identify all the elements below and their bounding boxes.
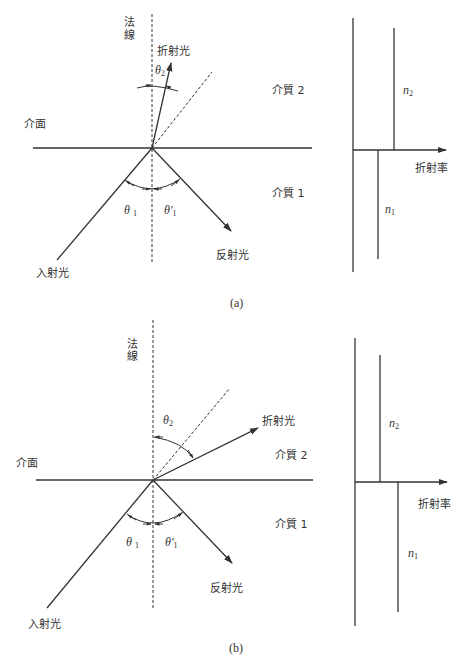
incident-extension-line (153, 388, 230, 480)
figure-a: 法 線 折射光 介面 介質 2 介質 1 入射光 反射光 θ2 θ1 θ′1 折… (24, 14, 448, 310)
incident-light-label: 入射光 (36, 266, 69, 280)
n2-label: n2 (403, 83, 413, 98)
n2-label: n2 (389, 416, 399, 431)
index-chart-a: 折射率 n2 n1 (353, 18, 448, 272)
theta1-label: θ1 (124, 203, 137, 218)
theta1p-arrow-right-icon (174, 513, 182, 519)
theta2-label: θ2 (155, 63, 165, 78)
caption-a: (a) (230, 296, 243, 310)
theta2-arc (137, 86, 178, 91)
medium-2-label: 介質 2 (275, 448, 308, 462)
ray-diagram-a: 法 線 折射光 介面 介質 2 介質 1 入射光 反射光 θ2 θ1 θ′1 (24, 14, 312, 280)
refracted-light-label: 折射光 (262, 414, 295, 428)
medium-2-label: 介質 2 (272, 83, 305, 97)
incident-light-label: 入射光 (28, 617, 61, 631)
theta1-prime-label: θ′1 (164, 203, 177, 218)
medium-1-label: 介質 1 (275, 517, 308, 531)
normal-label-2: 線 (127, 349, 138, 363)
n1-label: n1 (385, 202, 395, 217)
theta1-arc (127, 512, 183, 523)
refracted-light-label: 折射光 (157, 44, 190, 58)
incident-ray (57, 148, 152, 260)
theta1-prime-label: θ′1 (165, 535, 178, 550)
index-axis-label: 折射率 (415, 161, 448, 175)
reflected-light-label: 反射光 (210, 581, 243, 595)
ray-diagram-b: 法 線 折射光 介面 介質 2 介質 1 入射光 反射光 θ2 θ1 θ′1 (16, 320, 313, 631)
figure-b: 法 線 折射光 介面 介質 2 介質 1 入射光 反射光 θ2 θ1 θ′1 折… (16, 320, 451, 655)
reflected-light-label: 反射光 (216, 248, 249, 262)
medium-1-label: 介質 1 (272, 186, 305, 200)
theta1-arrow-left-icon (128, 515, 136, 520)
theta2-label: θ2 (163, 413, 173, 428)
interface-label: 介面 (24, 118, 46, 131)
refraction-diagram: 法 線 折射光 介面 介質 2 介質 1 入射光 反射光 θ2 θ1 θ′1 折… (0, 0, 470, 662)
caption-b: (b) (229, 641, 243, 655)
theta2-arrow-bottom-icon (188, 450, 193, 458)
theta1-arrow-left-icon (126, 181, 134, 186)
theta1p-arrow-right-icon (171, 180, 179, 186)
normal-label-1: 法 (127, 337, 138, 351)
index-axis-label: 折射率 (418, 497, 451, 511)
reflected-ray (152, 148, 231, 231)
index-chart-b: 折射率 n2 n1 (355, 338, 451, 626)
n1-label: n1 (408, 546, 418, 561)
normal-label-1: 法 (124, 15, 135, 29)
interface-label: 介面 (16, 457, 38, 470)
refracted-ray (153, 428, 258, 480)
normal-label-2: 線 (124, 28, 135, 42)
theta1-label: θ1 (126, 535, 139, 550)
